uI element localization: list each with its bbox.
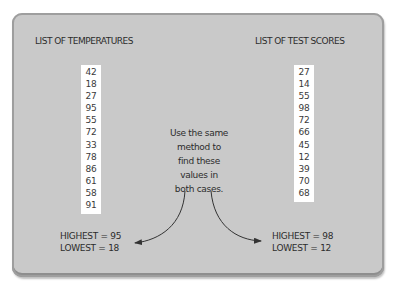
lowest-temperature: LOWEST = 18 bbox=[60, 242, 121, 254]
right-arrow-icon bbox=[211, 191, 261, 241]
highest-temperature: HIGHEST = 95 bbox=[60, 230, 121, 242]
temperatures-result: HIGHEST = 95 LOWEST = 18 bbox=[60, 230, 121, 254]
test-scores-result: HIGHEST = 98 LOWEST = 12 bbox=[272, 230, 333, 254]
lowest-test-score: LOWEST = 12 bbox=[272, 242, 333, 254]
left-arrow-icon bbox=[135, 191, 185, 243]
highest-test-score: HIGHEST = 98 bbox=[272, 230, 333, 242]
